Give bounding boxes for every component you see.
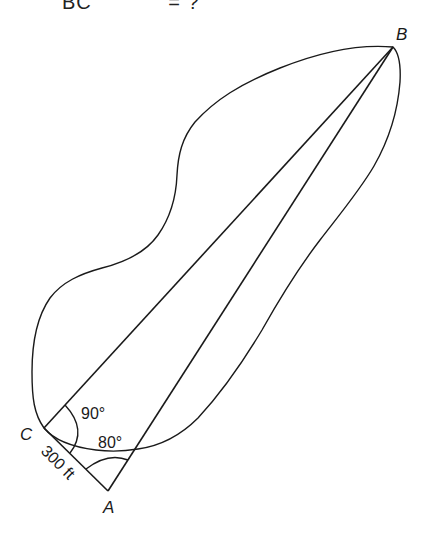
- point-label-C: C: [20, 425, 33, 444]
- point-label-A: A: [102, 498, 114, 517]
- angle-label-A: 80°: [98, 434, 122, 451]
- obstacle-outline: [32, 46, 400, 451]
- angle-label-C: 90°: [81, 405, 105, 422]
- line-CB: [44, 47, 393, 428]
- line-AB: [108, 47, 393, 491]
- angle-arc-A: [86, 457, 128, 469]
- point-label-B: B: [396, 25, 407, 44]
- diagram-canvas: B C A 90° 80° 300 ft: [0, 0, 427, 542]
